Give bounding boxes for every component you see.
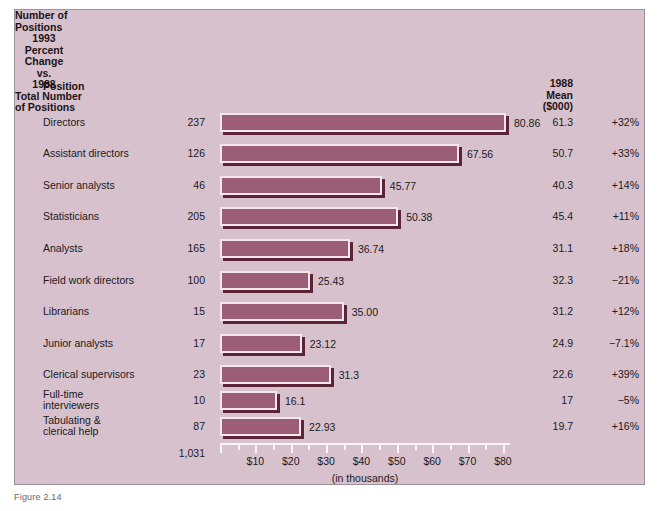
row-value-percent-change: −5%: [581, 395, 639, 407]
row-value-1988-mean: 32.3: [525, 275, 573, 287]
bar-value-label: 35.00: [344, 306, 378, 318]
bar-fill: [220, 113, 506, 132]
x-axis-major-tick: [432, 445, 434, 453]
x-axis-major-tick: [468, 445, 470, 453]
row-value-percent-change: +16%: [581, 421, 639, 433]
row-value-number-of-positions: 165: [135, 243, 205, 255]
row-value-1988-mean: 31.2: [525, 306, 573, 318]
bar-fill: [220, 271, 310, 290]
row-value-percent-change: +18%: [581, 243, 639, 255]
x-axis-minor-tick: [344, 445, 346, 450]
x-axis-major-tick: [326, 445, 328, 453]
column-header-position: Position: [43, 81, 163, 93]
row-value-number-of-positions: 237: [135, 117, 205, 129]
total-positions-value: 1,031: [135, 448, 205, 460]
x-axis-tick-label: $70: [459, 455, 477, 467]
bar-value-label: 23.12: [302, 338, 336, 350]
bar: 50.38: [220, 207, 398, 226]
x-axis-tick-label: $20: [282, 455, 300, 467]
x-axis-minor-tick: [273, 445, 275, 450]
row-value-number-of-positions: 205: [135, 211, 205, 223]
bar: 16.1: [220, 391, 277, 410]
bar-plot-area: 80.8667.5645.7750.3836.7425.4335.0023.12…: [220, 110, 510, 440]
row-value-number-of-positions: 10: [135, 395, 205, 407]
bar-fill: [220, 239, 350, 258]
row-value-percent-change: −21%: [581, 275, 639, 287]
row-value-1988-mean: 45.4: [525, 211, 573, 223]
x-axis-major-tick: [291, 445, 293, 453]
x-axis-title: (in thousands): [220, 472, 510, 484]
x-axis-tick-label: $80: [494, 455, 512, 467]
row-value-number-of-positions: 100: [135, 275, 205, 287]
bar-value-label: 16.1: [277, 395, 305, 407]
x-axis-tick-label: $60: [423, 455, 441, 467]
bar-value-label: 50.38: [398, 211, 432, 223]
row-value-1988-mean: 22.6: [525, 369, 573, 381]
x-axis-major-tick: [397, 445, 399, 453]
x-axis-major-tick: [503, 445, 505, 453]
bar-fill: [220, 207, 398, 226]
row-value-number-of-positions: 126: [135, 148, 205, 160]
bar: 36.74: [220, 239, 350, 258]
bar: 25.43: [220, 271, 310, 290]
row-value-1988-mean: 31.1: [525, 243, 573, 255]
x-axis-minor-tick: [238, 445, 240, 450]
x-axis-tick-label: $40: [353, 455, 371, 467]
bar: 35.00: [220, 302, 344, 321]
row-value-number-of-positions: 23: [135, 369, 205, 381]
bar-value-label: 25.43: [310, 275, 344, 287]
x-axis-minor-tick: [308, 445, 310, 450]
bar: 45.77: [220, 176, 382, 195]
figure-caption: Figure 2.14: [14, 492, 62, 502]
row-value-1988-mean: 19.7: [525, 421, 573, 433]
x-axis: $10$20$30$40$50$60$70$80: [220, 443, 510, 444]
x-axis-minor-tick: [379, 445, 381, 450]
bar: 31.3: [220, 365, 331, 384]
bar-fill: [220, 176, 382, 195]
row-value-percent-change: +12%: [581, 306, 639, 318]
row-value-number-of-positions: 87: [135, 421, 205, 433]
row-value-1988-mean: 50.7: [525, 148, 573, 160]
row-value-percent-change: +14%: [581, 180, 639, 192]
x-axis-minor-tick: [450, 445, 452, 450]
x-axis-major-tick: [361, 445, 363, 453]
bar-fill: [220, 365, 331, 384]
bar-fill: [220, 144, 459, 163]
bar: 80.86: [220, 113, 506, 132]
row-value-percent-change: +39%: [581, 369, 639, 381]
row-value-number-of-positions: 46: [135, 180, 205, 192]
row-value-1988-mean: 24.9: [525, 338, 573, 350]
bar-fill: [220, 302, 344, 321]
bar-value-label: 22.93: [301, 421, 335, 433]
bar-value-label: 31.3: [331, 369, 359, 381]
x-axis-origin-tick: [220, 445, 222, 453]
bar-value-label: 45.77: [382, 180, 416, 192]
x-axis-tick-label: $50: [388, 455, 406, 467]
row-value-percent-change: −7.1%: [581, 338, 639, 350]
row-value-1988-mean: 40.3: [525, 180, 573, 192]
row-value-1988-mean: 17: [525, 395, 573, 407]
column-header-number-of-positions: Number ofPositions: [15, 10, 91, 33]
bar-value-label: 67.56: [459, 148, 493, 160]
x-axis-tick-label: $10: [247, 455, 265, 467]
row-value-percent-change: +11%: [581, 211, 639, 223]
row-value-number-of-positions: 17: [135, 338, 205, 350]
row-value-number-of-positions: 15: [135, 306, 205, 318]
total-positions-label: Total Numberof Positions: [15, 91, 125, 114]
x-axis-minor-tick: [415, 445, 417, 450]
bar-fill: [220, 417, 301, 436]
bar-value-label: 80.86: [506, 117, 540, 129]
bar: 23.12: [220, 334, 302, 353]
bar-value-label: 36.74: [350, 243, 384, 255]
bar-fill: [220, 334, 302, 353]
x-axis-line: [220, 443, 510, 445]
x-axis-major-tick: [255, 445, 257, 453]
row-value-percent-change: +32%: [581, 117, 639, 129]
column-header-1988-mean: 1988 Mean($000): [525, 78, 573, 113]
bar: 67.56: [220, 144, 459, 163]
row-value-percent-change: +33%: [581, 148, 639, 160]
chart-panel: Position Number ofPositions 1988 Mean($0…: [14, 9, 645, 485]
bar-fill: [220, 391, 277, 410]
x-axis-tick-label: $30: [317, 455, 335, 467]
x-axis-minor-tick: [485, 445, 487, 450]
